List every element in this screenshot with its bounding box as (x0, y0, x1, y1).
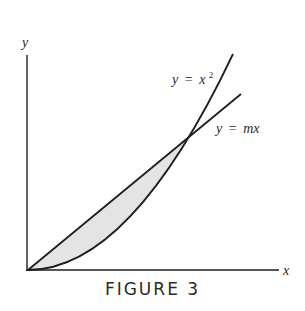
parabola-label-eq: = (185, 72, 193, 87)
line-label-var: y (214, 121, 223, 136)
figure-diagram: y x y = x 2 y = mx (0, 0, 305, 311)
line-label: y = mx (214, 121, 260, 136)
parabola-label-var: y (170, 72, 179, 87)
line-y-equals-mx (28, 94, 241, 270)
parabola-label-rhs: x (198, 72, 206, 87)
figure-caption: FIGURE 3 (0, 279, 305, 299)
line-label-eq: = (229, 121, 237, 136)
line-label-rhs: mx (243, 121, 260, 136)
x-axis-label: x (282, 263, 290, 278)
parabola-label-exponent: 2 (209, 70, 214, 80)
parabola-label: y = x 2 (170, 70, 213, 87)
y-axis-label: y (20, 35, 29, 50)
